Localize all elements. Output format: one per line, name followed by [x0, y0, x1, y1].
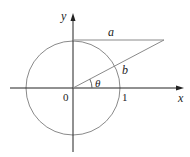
y-axis-label: y: [60, 9, 67, 23]
theta-arc: [90, 79, 92, 88]
ray-b: [73, 40, 164, 88]
x-axis-label: x: [177, 91, 184, 105]
origin-label: 0: [63, 91, 69, 103]
one-label: 1: [122, 91, 128, 103]
b-label: b: [122, 63, 128, 77]
y-axis-arrow-icon: [71, 13, 76, 21]
unit-circle-diagram: y x 0 1 a b θ: [0, 0, 190, 157]
x-axis-arrow-icon: [176, 86, 184, 91]
theta-label: θ: [95, 77, 101, 89]
a-label: a: [108, 25, 114, 39]
